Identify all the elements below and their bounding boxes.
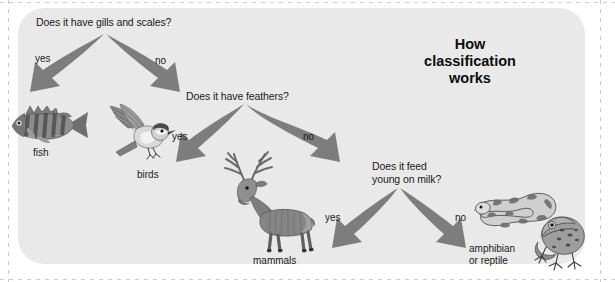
question-feed-young-on-milk: Does it feed young on milk?: [372, 160, 441, 185]
outcome-label-amphibian-or-reptile: amphibian or reptile: [469, 243, 515, 266]
stag-deer-illustration: [214, 150, 320, 254]
question-gills-and-scales: Does it have gills and scales?: [36, 16, 171, 29]
branch-label-q1-no: no: [155, 55, 166, 66]
classification-diagram-page: Does it have gills and scales? Does it h…: [0, 0, 615, 282]
outcome-label-mammals: mammals: [253, 255, 296, 267]
perch-fish-illustration: [2, 104, 88, 146]
arrow-q3-yes: [332, 188, 398, 248]
flying-bird-illustration: [108, 104, 178, 166]
snake-and-frog-illustration: [474, 186, 615, 282]
question-feathers: Does it have feathers?: [186, 90, 289, 103]
branch-label-q3-yes: yes: [325, 212, 341, 223]
outcome-label-birds: birds: [137, 169, 159, 181]
branch-label-q1-yes: yes: [35, 53, 51, 64]
branch-label-q3-no: no: [455, 212, 466, 223]
page-title: How classification works: [400, 36, 540, 87]
arrow-q1-no: [106, 34, 180, 92]
branch-label-q2-no: no: [303, 131, 314, 142]
outcome-label-fish: fish: [33, 147, 49, 159]
